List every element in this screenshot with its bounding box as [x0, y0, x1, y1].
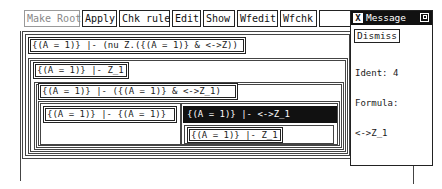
resize-icon[interactable] — [420, 13, 429, 22]
msg-line: State set: — [355, 188, 442, 189]
msg-line: Formula: — [355, 98, 442, 108]
node-label: {(A = 1)} |- <->Z_1 — [187, 109, 290, 119]
edit-button[interactable]: Edit — [172, 10, 201, 27]
show-button[interactable]: Show — [203, 10, 235, 27]
message-title-bar[interactable]: X Message — [351, 11, 432, 25]
message-title: Message — [366, 11, 406, 25]
canvas-left-border — [20, 31, 21, 181]
apply-button[interactable]: Apply — [82, 10, 117, 27]
dismiss-button[interactable]: Dismiss — [354, 29, 400, 43]
make-root-button[interactable]: Make Root — [24, 10, 80, 27]
tree-node-z1[interactable]: {(A = 1)} |- Z_1 — [33, 62, 129, 79]
hidden-toolbar-button[interactable] — [319, 10, 353, 27]
node-label: {(A = 1)} |- {(A = 1)} — [47, 109, 166, 119]
tree-node-diamond-selected[interactable]: {(A = 1)} |- <->Z_1 — [183, 106, 337, 123]
chk-rule-button[interactable]: Chk rule — [119, 10, 170, 27]
tree-node-axiom[interactable]: {(A = 1)} |- {(A = 1)} — [43, 106, 177, 123]
node-label: {(A = 1)} |- ({(A = 1)} & <->Z_1) — [42, 86, 221, 96]
wfedit-button[interactable]: Wfedit — [237, 10, 278, 27]
node-label: {(A = 1)} |- Z_1 — [37, 65, 124, 75]
msg-line: Ident: 4 — [355, 68, 442, 78]
message-window: X Message Dismiss Ident: 4 Formula: <->Z… — [350, 10, 433, 166]
tree-node-z1-leaf[interactable]: {(A = 1)} |- Z_1 — [187, 127, 283, 143]
msg-line: <->Z_1 — [355, 128, 442, 138]
background-window-edge — [413, 166, 414, 184]
message-body: Ident: 4 Formula: <->Z_1 State set: (A =… — [355, 48, 442, 189]
msg-line — [355, 158, 442, 168]
tree-node-and[interactable]: {(A = 1)} |- ({(A = 1)} & <->Z_1) — [38, 83, 238, 100]
wfchk-button[interactable]: Wfchk — [280, 10, 317, 27]
node-label: {(A = 1)} |- Z_1 — [191, 130, 278, 140]
tree-node-root[interactable]: {(A = 1)} |- (nu Z.({(A = 1)} & <->Z)) — [28, 37, 246, 54]
node-label: {(A = 1)} |- (nu Z.({(A = 1)} & <->Z)) — [32, 40, 238, 50]
x-window-icon[interactable]: X — [353, 13, 363, 23]
